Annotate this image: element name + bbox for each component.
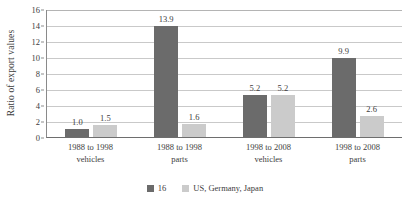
y-axis-tick-mark: [41, 90, 44, 91]
bar-groups: 1.01.513.91.65.25.29.92.6: [47, 10, 402, 137]
bar[interactable]: [154, 26, 178, 137]
bar[interactable]: [271, 95, 295, 137]
x-axis-label-line2: parts: [313, 153, 402, 165]
legend-item-label: US, Germany, Japan: [193, 183, 263, 193]
y-axis-tick-label: 4: [36, 101, 40, 111]
y-axis-tick-label: 14: [32, 21, 41, 31]
x-axis-label-line1: 1988 to 1998: [68, 142, 113, 152]
bar-value-label: 1.0: [72, 117, 83, 127]
y-axis-title: Ratio of export values: [2, 0, 20, 145]
x-axis-category-label: 1998 to 2008vehicles: [224, 141, 313, 175]
legend-item-label: 16: [158, 183, 167, 193]
y-axis-tick-label: 6: [36, 85, 40, 95]
x-axis-label-line1: 1988 to 1998: [157, 142, 202, 152]
legend-swatch-icon: [147, 185, 154, 192]
y-axis-tick-label: 16: [32, 5, 41, 15]
bar[interactable]: [243, 95, 267, 137]
bar-group: 9.92.6: [313, 10, 402, 137]
bar-column: 9.9: [332, 10, 356, 137]
legend-item[interactable]: 16: [147, 183, 167, 193]
bar-column: 1.0: [65, 10, 89, 137]
plot-area: 1.01.513.91.65.25.29.92.6: [46, 10, 402, 138]
chart-legend: 16US, Germany, Japan: [0, 183, 410, 193]
y-axis-tick-mark: [41, 10, 44, 11]
bar-value-label: 5.2: [250, 83, 261, 93]
bar-column: 1.6: [182, 10, 206, 137]
bar[interactable]: [360, 116, 384, 137]
y-axis-tick-mark: [41, 138, 44, 139]
bar-value-label: 13.9: [159, 14, 174, 24]
y-axis-tick-mark: [41, 122, 44, 123]
bar[interactable]: [65, 129, 89, 137]
bar-value-label: 1.6: [189, 112, 200, 122]
y-axis-tick-mark: [41, 26, 44, 27]
x-axis-label-line2: parts: [135, 153, 224, 165]
bar[interactable]: [332, 58, 356, 137]
x-axis-category-label: 1998 to 2008parts: [313, 141, 402, 175]
bar-column: 2.6: [360, 10, 384, 137]
bar-group: 13.91.6: [136, 10, 225, 137]
bar-column: 5.2: [243, 10, 267, 137]
y-axis-tick-mark: [41, 74, 44, 75]
bar-value-label: 5.2: [278, 83, 289, 93]
y-axis-tick-label: 0: [36, 133, 40, 143]
x-axis-label-line1: 1998 to 2008: [246, 142, 291, 152]
bar-chart-figure: Ratio of export values 0246810121416 1.0…: [0, 0, 410, 209]
y-axis-tick-labels: 0246810121416: [22, 10, 44, 138]
bar-column: 5.2: [271, 10, 295, 137]
x-axis-category-label: 1988 to 1998parts: [135, 141, 224, 175]
bar-value-label: 2.6: [366, 104, 377, 114]
y-axis-tick-mark: [41, 106, 44, 107]
y-axis-tick-label: 12: [32, 37, 41, 47]
bar-column: 13.9: [154, 10, 178, 137]
legend-swatch-icon: [182, 185, 189, 192]
y-axis-tick-label: 8: [36, 69, 40, 79]
y-axis-tick-mark: [41, 58, 44, 59]
x-axis-category-label: 1988 to 1998vehicles: [46, 141, 135, 175]
legend-item[interactable]: US, Germany, Japan: [182, 183, 263, 193]
x-axis-label-line1: 1998 to 2008: [335, 142, 380, 152]
bar-column: 1.5: [93, 10, 117, 137]
x-axis-category-labels: 1988 to 1998vehicles1988 to 1998parts199…: [46, 141, 402, 175]
y-axis-tick-mark: [41, 42, 44, 43]
y-axis-tick-label: 10: [32, 53, 41, 63]
x-axis-label-line2: vehicles: [46, 153, 135, 165]
y-axis-title-text: Ratio of export values: [6, 29, 16, 115]
bar[interactable]: [182, 124, 206, 137]
bar-value-label: 1.5: [100, 113, 111, 123]
bar-value-label: 9.9: [338, 46, 349, 56]
bar-group: 5.25.2: [225, 10, 314, 137]
bar[interactable]: [93, 125, 117, 137]
y-axis-tick-label: 2: [36, 117, 40, 127]
x-axis-label-line2: vehicles: [224, 153, 313, 165]
bar-group: 1.01.5: [47, 10, 136, 137]
